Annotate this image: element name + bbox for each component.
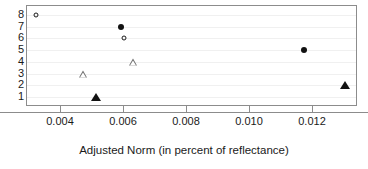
x-tick-mark — [186, 106, 187, 112]
x-axis-line — [0, 112, 368, 113]
data-point-circle-filled — [301, 47, 307, 53]
gridline — [27, 38, 356, 39]
x-tick-label: 0.012 — [298, 116, 326, 127]
data-point-circle-open — [33, 13, 38, 18]
data-point-triangle-filled — [91, 93, 101, 101]
plot-area — [26, 5, 357, 106]
y-tick-label: 6 — [2, 32, 24, 43]
y-tick-label: 3 — [2, 67, 24, 78]
gridline — [27, 74, 356, 75]
gridline — [27, 15, 356, 16]
x-tick-mark — [249, 106, 250, 112]
gridline — [27, 85, 356, 86]
data-point-circle-filled — [118, 24, 124, 30]
y-tick-label: 7 — [2, 20, 24, 31]
y-tick-label: 4 — [2, 55, 24, 66]
gridline — [27, 97, 356, 98]
x-tick-mark — [312, 106, 313, 112]
x-axis-title: Adjusted Norm (in percent of reflectance… — [0, 144, 368, 157]
scatter-plot-figure: 87654321 0.0040.0060.0080.0100.012 Adjus… — [0, 0, 368, 169]
gridline — [27, 62, 356, 63]
x-tick-label: 0.004 — [46, 116, 74, 127]
data-point-triangle-filled — [340, 81, 350, 89]
y-tick-label: 2 — [2, 79, 24, 90]
y-tick-label: 1 — [2, 90, 24, 101]
data-point-circle-open — [122, 36, 127, 41]
x-tick-mark — [123, 106, 124, 112]
x-axis: 0.0040.0060.0080.0100.012 — [0, 106, 368, 136]
x-tick-label: 0.010 — [235, 116, 263, 127]
data-point-triangle-open — [129, 58, 137, 65]
gridline — [27, 27, 356, 28]
x-tick-label: 0.006 — [109, 116, 137, 127]
data-point-triangle-open — [79, 70, 87, 77]
x-tick-label: 0.008 — [172, 116, 200, 127]
y-tick-label: 5 — [2, 44, 24, 55]
gridline — [27, 50, 356, 51]
x-tick-mark — [60, 106, 61, 112]
y-tick-label: 8 — [2, 9, 24, 20]
